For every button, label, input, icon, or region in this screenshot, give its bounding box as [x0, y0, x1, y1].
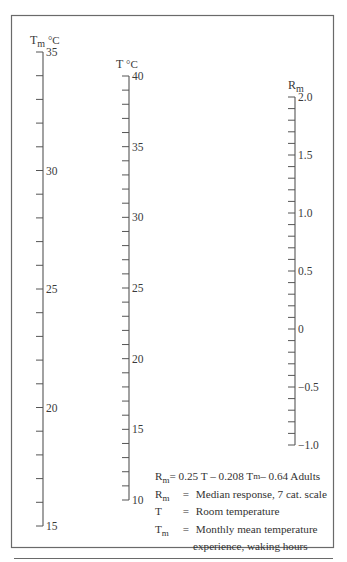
tick-label: 10	[132, 494, 144, 506]
legend-definition-rm: Rm= Median response, 7 cat. scale	[155, 488, 327, 506]
definition-text: Monthly mean temperature	[196, 523, 318, 541]
tick-label: 30	[46, 165, 58, 177]
definition-symbol: Rm	[155, 488, 179, 506]
legend-definition-continuation: experience, waking hours	[155, 540, 327, 554]
scale-t: 40353025201510T °C	[116, 57, 144, 506]
legend-definition-tm: Tm= Monthly mean temperature	[155, 523, 327, 541]
tick-label: 0.5	[298, 265, 313, 277]
equation-lhs: Rm	[155, 470, 169, 488]
definition-text: Median response, 7 cat. scale	[196, 488, 327, 506]
tick-label: 0	[298, 323, 304, 335]
legend-equation: Rm = 0.25 T – 0.208 Tm – 0.64 Adults	[155, 470, 327, 488]
equals-sign: =	[179, 523, 193, 541]
tick-label: 20	[46, 402, 58, 414]
scale-title: Rm	[288, 78, 304, 94]
tick-label: 35	[132, 141, 144, 153]
equation-rhs-part2: – 0.64 Adults	[260, 470, 320, 488]
equals-sign: =	[179, 505, 193, 523]
tick-label: 1.0	[298, 207, 313, 219]
tick-label: 35	[46, 46, 58, 58]
tick-label: 20	[132, 353, 144, 365]
definition-text: Room temperature	[196, 505, 280, 523]
definition-symbol: T	[155, 505, 179, 523]
legend: Rm = 0.25 T – 0.208 Tm – 0.64 Adults Rm=…	[155, 470, 327, 554]
figure-frame	[12, 16, 334, 548]
scale-rm: 2.01.51.00.50−0.5−1.0Rm	[288, 78, 319, 451]
tick-label: 1.5	[298, 149, 313, 161]
tick-label: 25	[132, 282, 144, 294]
tick-label: 15	[132, 423, 144, 435]
definition-symbol: Tm	[155, 523, 179, 541]
tick-label: −1.0	[298, 439, 319, 451]
legend-definition-t: T= Room temperature	[155, 505, 327, 523]
tick-label: −0.5	[298, 381, 319, 393]
scale-title: T °C	[116, 57, 138, 71]
tick-label: 30	[132, 211, 144, 223]
tick-label: 15	[46, 520, 58, 532]
scale-tm: 3530252015Tm °C	[30, 33, 60, 532]
equation-rhs-part1: = 0.25 T – 0.208 T	[169, 470, 253, 488]
equals-sign: =	[179, 488, 193, 506]
scales-group: 3530252015Tm °C40353025201510T °C2.01.51…	[30, 33, 319, 532]
tick-label: 40	[132, 70, 144, 82]
tick-label: 25	[46, 283, 58, 295]
